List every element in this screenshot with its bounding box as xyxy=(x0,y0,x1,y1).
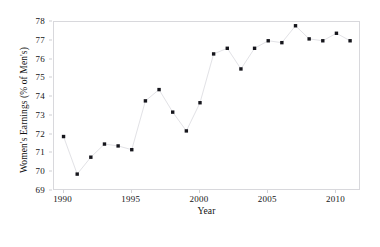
data-point xyxy=(307,37,310,40)
data-point xyxy=(212,52,215,55)
y-tick-mark xyxy=(49,190,52,191)
y-tick-label: 74 xyxy=(36,92,45,101)
series-line xyxy=(64,26,351,174)
data-point xyxy=(171,110,174,113)
x-tick-label: 2000 xyxy=(190,195,209,204)
y-tick-mark xyxy=(49,152,52,153)
data-point xyxy=(103,142,106,145)
y-tick-label: 72 xyxy=(36,129,45,138)
data-point xyxy=(62,135,65,138)
data-point xyxy=(321,39,324,42)
y-tick-label: 76 xyxy=(36,54,45,63)
x-tick-mark xyxy=(131,190,132,193)
y-tick-mark xyxy=(49,96,52,97)
y-tick-label: 78 xyxy=(36,17,45,26)
data-point xyxy=(335,32,338,35)
data-series xyxy=(54,22,361,191)
y-tick-mark xyxy=(49,77,52,78)
x-tick-label: 2005 xyxy=(258,195,277,204)
data-point xyxy=(76,172,79,175)
y-tick-mark xyxy=(49,114,52,115)
x-tick-mark xyxy=(267,190,268,193)
y-tick-label: 70 xyxy=(36,167,45,176)
data-point xyxy=(157,88,160,91)
data-point xyxy=(198,101,201,104)
y-tick-label: 71 xyxy=(36,148,45,157)
data-point xyxy=(144,99,147,102)
x-tick-mark xyxy=(199,190,200,193)
plot-area xyxy=(53,21,360,190)
chart-container: 69707172737475767778 Women's Earnings (%… xyxy=(0,0,380,247)
data-point xyxy=(239,67,242,70)
y-axis-title: Women's Earnings (% of Men's) xyxy=(19,25,29,195)
y-tick-label: 77 xyxy=(36,35,45,44)
x-tick-label: 1995 xyxy=(121,195,140,204)
y-tick-label: 75 xyxy=(36,73,45,82)
x-tick-mark xyxy=(63,190,64,193)
series-markers xyxy=(62,24,352,176)
data-point xyxy=(89,156,92,159)
y-tick-mark xyxy=(49,58,52,59)
data-point xyxy=(116,144,119,147)
x-tick-label: 2010 xyxy=(326,195,345,204)
y-tick-label: 69 xyxy=(36,186,45,195)
x-tick-mark xyxy=(335,190,336,193)
data-point xyxy=(130,148,133,151)
data-point xyxy=(294,24,297,27)
data-point xyxy=(253,47,256,50)
data-point xyxy=(348,39,351,42)
x-tick-label: 1990 xyxy=(53,195,72,204)
x-axis-title: Year xyxy=(53,206,360,216)
data-point xyxy=(280,41,283,44)
data-point xyxy=(267,39,270,42)
y-tick-mark xyxy=(49,21,52,22)
y-tick-mark xyxy=(49,39,52,40)
y-tick-mark xyxy=(49,133,52,134)
y-tick-label: 73 xyxy=(36,110,45,119)
y-tick-mark xyxy=(49,171,52,172)
data-point xyxy=(226,47,229,50)
data-point xyxy=(185,129,188,132)
